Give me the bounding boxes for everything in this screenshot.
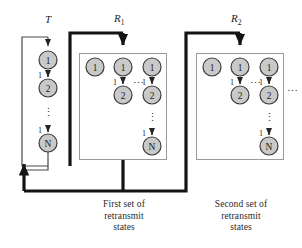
vertical-ellipsis: ⋮ xyxy=(43,106,54,118)
edge-weight-label: 1 xyxy=(259,129,263,138)
edge-weight-label: 1 xyxy=(230,78,234,87)
state-label: 1 xyxy=(210,63,215,73)
state-label: 1 xyxy=(267,63,272,73)
state-label: N xyxy=(149,142,156,152)
vertical-ellipsis: ⋮ xyxy=(264,111,275,123)
edge-weight-label: 1 xyxy=(142,129,146,138)
column-r2-c2: 1 2 1 xyxy=(230,58,249,104)
column-t: 1 2 N 1 1 ⋮ xyxy=(38,51,57,152)
state-label: 2 xyxy=(150,91,155,101)
group-label-t-text: T xyxy=(45,13,51,25)
caption-first-line2: retransmit xyxy=(83,211,165,223)
group-label-t: T xyxy=(45,13,51,25)
state-label: 1 xyxy=(150,63,155,73)
horizontal-ellipsis-r1: ⋯ xyxy=(133,77,144,89)
state-label: 2 xyxy=(267,91,272,101)
horizontal-ellipsis-trailing: ⋯ xyxy=(287,85,298,97)
state-label: 2 xyxy=(238,91,243,101)
figure-canvas: 1 2 N 1 1 ⋮ 1 1 2 1 xyxy=(0,0,302,248)
vertical-ellipsis: ⋮ xyxy=(147,111,158,123)
horizontal-ellipsis-r2: ⋯ xyxy=(250,77,261,89)
state-label: 1 xyxy=(238,63,243,73)
column-r1-c3: 1 2 N 1 1 ⋮ xyxy=(142,58,161,155)
caption-first-set: First set of retransmit states xyxy=(83,199,165,234)
caption-first-line3: states xyxy=(83,222,165,234)
group-label-r1-text: R xyxy=(114,12,121,24)
state-label: 1 xyxy=(121,63,126,73)
caption-first-line1: First set of xyxy=(83,199,165,211)
group-label-r2: R2 xyxy=(231,12,241,27)
column-r1-c1: 1 xyxy=(86,58,104,76)
state-label: 2 xyxy=(46,84,51,94)
state-label: 1 xyxy=(46,56,51,66)
group-label-r1: R1 xyxy=(114,12,124,27)
edge-weight-label: 1 xyxy=(113,78,117,87)
state-label: 2 xyxy=(121,91,126,101)
edge-weight-label: 1 xyxy=(38,71,42,80)
column-r1-c2: 1 2 1 xyxy=(113,58,132,104)
state-label: N xyxy=(45,139,52,149)
caption-second-line3: states xyxy=(196,222,286,234)
column-r2-c1: 1 xyxy=(203,58,221,76)
group-label-r2-text: R xyxy=(231,12,238,24)
group-label-r2-sub: 2 xyxy=(238,18,242,27)
column-r2-c3: 1 2 N 1 1 ⋮ xyxy=(259,58,278,155)
caption-second-line1: Second set of xyxy=(196,199,286,211)
caption-second-set: Second set of retransmit states xyxy=(196,199,286,234)
state-label: 1 xyxy=(93,63,98,73)
state-label: N xyxy=(266,142,273,152)
group-label-r1-sub: 1 xyxy=(121,18,125,27)
caption-second-line2: retransmit xyxy=(196,211,286,223)
edge-weight-label: 1 xyxy=(38,126,42,135)
